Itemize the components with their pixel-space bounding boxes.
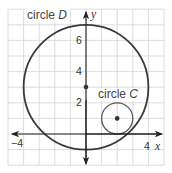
circle-d-label: circle D	[27, 8, 67, 22]
circle-c-center-point	[115, 116, 120, 121]
y-tick-6: 6	[76, 34, 82, 46]
y-tick-2: 2	[76, 96, 82, 108]
y-axis-label: y	[90, 8, 97, 21]
y-tick-4: 4	[76, 65, 82, 77]
x-tick-neg4: −4	[11, 137, 23, 149]
circle-d-center-point	[84, 85, 89, 90]
x-tick-4: 4	[144, 140, 150, 152]
coordinate-diagram: y x 6 4 2 −4 4 circle D circle C	[0, 0, 172, 173]
circle-c-label: circle C	[98, 87, 138, 101]
x-axis-label: x	[154, 140, 161, 152]
